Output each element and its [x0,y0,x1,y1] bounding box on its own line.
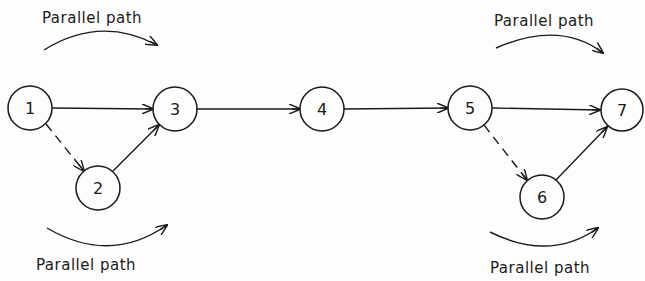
curved-arrow-bottom-right [490,228,598,246]
annotation-bottom-right: Parallel path [490,259,590,277]
edge-2-3 [113,125,159,171]
node-7: 7 [601,89,643,131]
edge-1-3 [52,108,153,109]
node-4: 4 [300,87,344,131]
node-6: 6 [520,175,564,219]
edge-1-2-dashed [46,124,84,171]
annotation-bottom-left: Parallel path [36,256,136,274]
node-1-label: 1 [25,99,35,118]
node-4-label: 4 [317,100,327,119]
node-1: 1 [8,86,52,130]
edge-6-7 [556,127,607,180]
network-diagram: Parallel path Parallel path Parallel pat… [0,0,645,281]
edge-5-6-dashed [484,125,527,180]
edge-4-5 [344,108,448,109]
curved-arrow-top-left [44,31,157,50]
node-5: 5 [448,86,492,130]
curved-arrow-bottom-left [47,225,167,246]
annotation-top-right: Parallel path [494,12,594,30]
node-6-label: 6 [537,188,547,207]
annotation-top-left: Parallel path [42,9,142,27]
curved-arrow-top-right [496,35,603,53]
node-5-label: 5 [465,99,475,118]
node-2-label: 2 [93,179,103,198]
node-3-label: 3 [170,100,180,119]
node-2: 2 [76,166,120,210]
edge-5-7 [492,108,600,110]
node-3: 3 [153,87,197,131]
node-7-label: 7 [617,101,627,120]
